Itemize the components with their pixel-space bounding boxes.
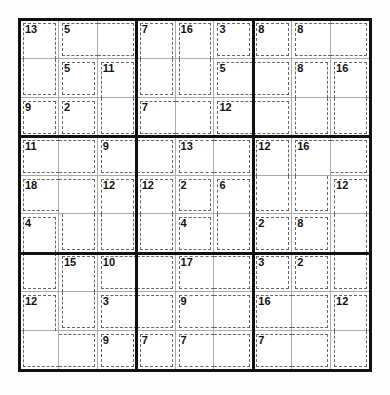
cage-sum-label: 8 <box>296 63 304 74</box>
cell-r3c8[interactable] <box>331 137 370 176</box>
cell-r0c8[interactable] <box>331 20 370 59</box>
cage-sum-label: 2 <box>180 180 188 191</box>
cage-sum-label: 17 <box>180 257 194 268</box>
box-divider-horizontal <box>20 252 370 255</box>
killer-sudoku-board: 1357163885115816927121191312161812122612… <box>20 20 370 370</box>
cell-r3c1[interactable] <box>59 137 98 176</box>
cage-sum-label: 4 <box>24 218 32 229</box>
cell-r5c5[interactable] <box>214 214 253 253</box>
cage-sum-label: 9 <box>24 102 32 113</box>
cage-sum-label: 8 <box>257 24 265 35</box>
cell-r5c2[interactable] <box>98 214 137 253</box>
cell-r2c4[interactable] <box>176 98 215 137</box>
cage-sum-label: 15 <box>63 257 77 268</box>
cell-r7c7[interactable] <box>292 292 331 331</box>
cage-sum-label: 3 <box>257 257 265 268</box>
cell-r7c3[interactable] <box>137 292 176 331</box>
cell-r6c5[interactable] <box>214 253 253 292</box>
cage-sum-label: 8 <box>296 218 304 229</box>
cage-sum-label: 11 <box>24 141 38 152</box>
cell-r1c4[interactable] <box>176 59 215 98</box>
cage-sum-label: 9 <box>102 141 110 152</box>
cell-r5c1[interactable] <box>59 214 98 253</box>
cage-sum-label: 7 <box>141 102 149 113</box>
cell-r6c0[interactable] <box>20 253 59 292</box>
cage-sum-label: 5 <box>63 24 71 35</box>
cell-r7c1[interactable] <box>59 292 98 331</box>
cell-r4c7[interactable] <box>292 176 331 215</box>
cell-r2c2[interactable] <box>98 98 137 137</box>
cage-sum-label: 12 <box>335 296 349 307</box>
cage-sum-label: 7 <box>180 335 188 346</box>
cell-r3c5[interactable] <box>214 137 253 176</box>
cage-sum-label: 4 <box>180 218 188 229</box>
cage-sum-label: 12 <box>218 102 232 113</box>
cage-sum-label: 16 <box>257 296 271 307</box>
box-divider-horizontal <box>20 135 370 138</box>
cage-sum-label: 12 <box>257 141 271 152</box>
cage-sum-label: 5 <box>218 63 226 74</box>
cage-sum-label: 6 <box>218 180 226 191</box>
cage-sum-label: 2 <box>63 102 71 113</box>
cage-sum-label: 11 <box>102 63 116 74</box>
cell-r2c6[interactable] <box>253 98 292 137</box>
cell-r8c8[interactable] <box>331 331 370 370</box>
cage-sum-label: 9 <box>180 296 188 307</box>
cell-r7c5[interactable] <box>214 292 253 331</box>
cage-sum-label: 16 <box>296 141 310 152</box>
cage-sum-label: 12 <box>141 180 155 191</box>
cage-sum-label: 12 <box>335 180 349 191</box>
cell-r8c5[interactable] <box>214 331 253 370</box>
cell-r5c8[interactable] <box>331 214 370 253</box>
cage-sum-label: 5 <box>63 63 71 74</box>
cell-r8c7[interactable] <box>292 331 331 370</box>
cell-r2c8[interactable] <box>331 98 370 137</box>
cell-r4c1[interactable] <box>59 176 98 215</box>
cage-sum-label: 10 <box>102 257 116 268</box>
cage-sum-label: 2 <box>296 257 304 268</box>
cage-sum-label: 8 <box>296 24 304 35</box>
cell-r5c3[interactable] <box>137 214 176 253</box>
cell-r6c3[interactable] <box>137 253 176 292</box>
cage-sum-label: 12 <box>24 296 38 307</box>
cell-r8c1[interactable] <box>59 331 98 370</box>
cage-sum-label: 12 <box>102 180 116 191</box>
cage-sum-label: 7 <box>141 335 149 346</box>
cage-sum-label: 3 <box>218 24 226 35</box>
cell-r2c7[interactable] <box>292 98 331 137</box>
cage-sum-label: 3 <box>102 296 110 307</box>
cell-r0c2[interactable] <box>98 20 137 59</box>
cage-sum-label: 2 <box>257 218 265 229</box>
cell-r8c0[interactable] <box>20 331 59 370</box>
box-divider-vertical <box>135 20 138 370</box>
cage-sum-label: 13 <box>24 24 38 35</box>
cage-sum-label: 7 <box>141 24 149 35</box>
cell-r1c6[interactable] <box>253 59 292 98</box>
cage-sum-label: 7 <box>257 335 265 346</box>
cage-sum-label: 16 <box>180 24 194 35</box>
cell-r4c6[interactable] <box>253 176 292 215</box>
cell-r1c3[interactable] <box>137 59 176 98</box>
cage-sum-label: 13 <box>180 141 194 152</box>
cell-r3c3[interactable] <box>137 137 176 176</box>
box-divider-vertical <box>252 20 255 370</box>
cage-sum-label: 18 <box>24 180 38 191</box>
cage-sum-label: 16 <box>335 63 349 74</box>
cell-r1c0[interactable] <box>20 59 59 98</box>
cell-r6c8[interactable] <box>331 253 370 292</box>
cage-sum-label: 9 <box>102 335 110 346</box>
